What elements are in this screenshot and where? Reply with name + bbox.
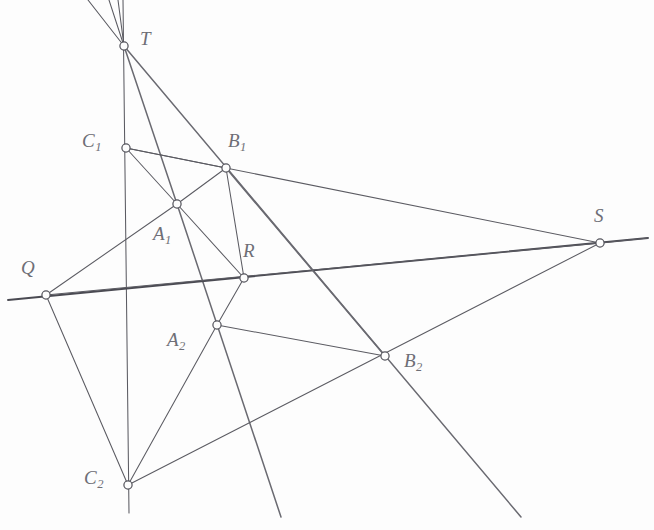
segment-A1-B1	[177, 168, 226, 204]
point-label-subscript: 1	[95, 140, 101, 154]
point-label-base: B	[228, 130, 240, 151]
line-A1-A2-bottom	[177, 204, 281, 517]
point-label-c2: C2	[84, 468, 103, 487]
geometry-figure	[0, 0, 654, 530]
line-vertical-C1-C2	[123, 0, 129, 513]
segment-Q-C2	[46, 295, 128, 485]
point-label-q: Q	[21, 258, 35, 277]
point-label-base: A	[153, 223, 165, 244]
vertex-point-a2	[213, 321, 221, 329]
line-Q-A1-upper	[46, 204, 177, 295]
point-label-c1: C1	[82, 131, 101, 150]
point-label-base: S	[594, 205, 604, 226]
point-label-subscript: 2	[179, 339, 185, 353]
point-label-r: R	[243, 241, 255, 260]
point-label-base: C	[82, 130, 95, 151]
vertex-point-a1	[173, 200, 181, 208]
segment-A2-B2	[217, 325, 385, 356]
point-label-subscript: 2	[416, 360, 422, 374]
point-label-b2: B2	[404, 351, 422, 370]
point-label-base: R	[243, 240, 255, 261]
ray-T-upper-mid	[109, 0, 124, 46]
segments-layer	[8, 0, 648, 517]
point-label-subscript: 2	[97, 477, 103, 491]
point-label-base: C	[84, 467, 97, 488]
vertex-point-q	[42, 291, 50, 299]
vertex-point-t	[120, 42, 128, 50]
vertex-point-c1	[122, 144, 130, 152]
vertex-point-b1	[222, 164, 230, 172]
segment-T-A1	[124, 46, 177, 204]
point-label-subscript: 1	[240, 140, 246, 154]
diagram-canvas: TC1B1A1QRSA2B2C2	[0, 0, 654, 530]
line-Q-A2-B2-S	[46, 243, 600, 295]
point-label-t: T	[140, 29, 151, 48]
point-label-base: Q	[21, 257, 35, 278]
point-label-b1: B1	[228, 131, 246, 150]
line-S-right-extension	[600, 238, 648, 243]
segment-R-A2	[217, 278, 244, 325]
vertex-point-c2	[124, 481, 132, 489]
line-B1-B2-bottom	[226, 168, 385, 356]
point-label-s: S	[594, 206, 604, 225]
vertex-point-s	[596, 239, 604, 247]
line-C1-B1-to-S	[126, 148, 600, 243]
vertex-point-b2	[381, 352, 389, 360]
point-label-a2: A2	[167, 330, 185, 349]
segment-C2-B2-to-S	[128, 243, 600, 485]
point-label-base: B	[404, 350, 416, 371]
vertex-point-r	[240, 274, 248, 282]
point-label-subscript: 1	[165, 233, 171, 247]
point-label-a1: A1	[153, 224, 171, 243]
point-label-base: A	[167, 329, 179, 350]
point-label-base: T	[140, 28, 151, 49]
